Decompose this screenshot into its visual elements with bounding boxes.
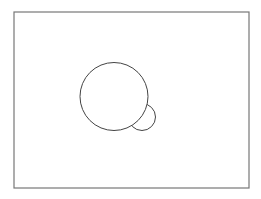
large-circle (80, 63, 148, 131)
small-circle (129, 104, 156, 131)
frame-border (14, 12, 249, 188)
diagram-canvas (0, 0, 261, 199)
